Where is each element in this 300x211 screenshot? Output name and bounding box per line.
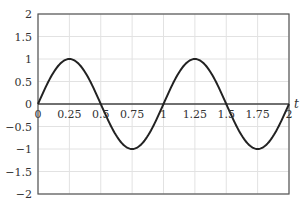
x-tick-labels: 00.250.50.7511.251.51.752 (35, 108, 293, 121)
y-tick-label: 0 (25, 98, 32, 111)
x-tick-label: 2 (286, 108, 293, 121)
x-tick-label: 1.5 (218, 108, 236, 121)
x-axis-label: t (294, 97, 299, 111)
y-tick-label: −1 (16, 143, 32, 156)
x-tick-label: 1 (160, 108, 167, 121)
y-tick-label: 0.5 (15, 76, 33, 89)
y-tick-label: −2 (16, 188, 32, 201)
x-tick-label: 1.25 (183, 108, 208, 121)
x-tick-label: 0.25 (57, 108, 82, 121)
y-tick-label: 1.5 (15, 31, 33, 44)
x-tick-label: 0 (35, 108, 42, 121)
y-tick-label: 1 (25, 53, 32, 66)
x-tick-label: 0.75 (120, 108, 145, 121)
y-tick-labels: 21.510.50−0.5−1−1.5−2 (5, 8, 32, 201)
x-tick-label: 0.5 (92, 108, 110, 121)
sine-wave-chart: 21.510.50−0.5−1−1.5−2 00.250.50.7511.251… (0, 0, 300, 211)
y-tick-label: −0.5 (5, 121, 32, 134)
x-tick-label: 1.75 (245, 108, 270, 121)
y-tick-label: −1.5 (5, 166, 32, 179)
y-tick-label: 2 (25, 8, 32, 21)
